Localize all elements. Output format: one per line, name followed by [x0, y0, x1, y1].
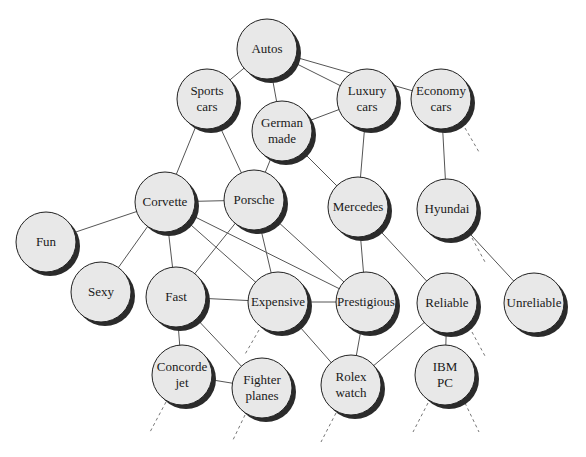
- semantic-network-diagram: AutosSportscarsLuxurycarsEconomycarsGerm…: [0, 0, 586, 457]
- node-concorde-jet: Concordejet: [152, 345, 216, 409]
- dashed-edge-from-reliable: [472, 332, 485, 356]
- node-porsche: Porsche: [224, 170, 288, 234]
- node-label: Sports: [190, 83, 223, 98]
- node-label: cars: [431, 99, 452, 114]
- dashed-edge-from-ibm-pc: [465, 403, 479, 432]
- node-label: Unreliable: [507, 295, 562, 310]
- node-economy-cars: Economycars: [411, 69, 475, 133]
- node-label: Reliable: [425, 295, 469, 310]
- node-label: watch: [335, 385, 367, 400]
- node-label: PC: [437, 375, 453, 390]
- node-label: Luxury: [348, 83, 387, 98]
- node-label: Concorde: [157, 359, 208, 374]
- node-label: Autos: [251, 41, 282, 56]
- node-label: cars: [357, 99, 378, 114]
- node-label: made: [268, 131, 296, 146]
- node-label: Expensive: [251, 294, 305, 309]
- dashed-edge-from-rolex-watch: [321, 413, 336, 442]
- node-label: German: [261, 115, 303, 130]
- node-fighter-planes: Fighterplanes: [232, 358, 296, 422]
- node-label: Corvette: [143, 194, 188, 209]
- node-label: Sexy: [88, 284, 115, 299]
- node-unreliable: Unreliable: [504, 273, 568, 337]
- node-label: Mercedes: [333, 199, 384, 214]
- node-prestigious: Prestigious: [336, 272, 400, 336]
- node-label: Rolex: [335, 369, 367, 384]
- node-corvette: Corvette: [135, 172, 199, 236]
- node-label: jet: [175, 375, 189, 390]
- node-label: IBM: [433, 359, 458, 374]
- node-ibm-pc: IBMPC: [415, 345, 479, 409]
- node-label: Fast: [165, 289, 187, 304]
- node-label: Economy: [416, 83, 466, 98]
- diagram-canvas: AutosSportscarsLuxurycarsEconomycarsGerm…: [0, 0, 586, 457]
- node-label: Prestigious: [337, 294, 395, 309]
- dashed-edge-from-ibm-pc: [413, 403, 428, 432]
- node-mercedes: Mercedes: [328, 177, 392, 241]
- dashed-edge-from-hyundai: [472, 238, 485, 262]
- node-label: Porsche: [233, 192, 274, 207]
- node-german-made: Germanmade: [252, 101, 316, 165]
- node-label: cars: [197, 99, 218, 114]
- node-reliable: Reliable: [417, 273, 481, 337]
- node-label: Hyundai: [425, 201, 470, 216]
- node-layer: AutosSportscarsLuxurycarsEconomycarsGerm…: [16, 19, 568, 422]
- node-expensive: Expensive: [248, 272, 312, 336]
- node-sexy: Sexy: [71, 262, 135, 326]
- dashed-edge-from-concorde-jet: [150, 402, 166, 432]
- node-label: planes: [245, 388, 278, 403]
- dashed-edge-from-economy-cars: [465, 128, 479, 152]
- node-autos: Autos: [237, 19, 301, 83]
- node-label: Fun: [36, 234, 57, 249]
- node-fun: Fun: [16, 212, 80, 276]
- node-fast: Fast: [146, 267, 210, 331]
- node-luxury-cars: Luxurycars: [337, 69, 401, 133]
- node-label: Fighter: [243, 372, 281, 387]
- node-hyundai: Hyundai: [417, 179, 481, 243]
- dashed-edge-from-fighter-planes: [232, 415, 245, 442]
- dashed-edge-from-expensive: [244, 330, 259, 356]
